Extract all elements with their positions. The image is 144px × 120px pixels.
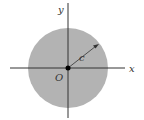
disk-diagram: y x O c bbox=[0, 0, 144, 120]
y-axis-label: y bbox=[57, 4, 64, 15]
x-axis-label: x bbox=[129, 63, 135, 74]
origin-point bbox=[66, 66, 71, 71]
origin-label: O bbox=[55, 72, 63, 83]
radius-label: c bbox=[79, 52, 85, 63]
